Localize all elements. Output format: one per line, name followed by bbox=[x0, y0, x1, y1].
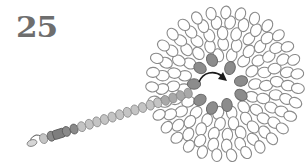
flower-bead bbox=[159, 119, 175, 135]
highlighted-bead bbox=[192, 92, 209, 108]
flower-bead bbox=[151, 107, 167, 122]
highlighted-bead bbox=[187, 79, 200, 89]
flower-bead bbox=[291, 83, 305, 94]
flower-bead bbox=[280, 40, 295, 54]
highlighted-bead bbox=[223, 60, 237, 76]
flower-bead bbox=[146, 67, 159, 78]
flower-bead bbox=[169, 130, 185, 146]
flower-bead bbox=[181, 126, 196, 142]
beading-diagram bbox=[0, 0, 305, 166]
flower-bead-rings bbox=[145, 5, 305, 162]
end-bead bbox=[26, 138, 37, 147]
flower-bead bbox=[212, 149, 222, 162]
flower-bead bbox=[286, 52, 302, 67]
highlighted-bead bbox=[233, 87, 250, 103]
flower-bead bbox=[270, 27, 286, 43]
highlighted-bead bbox=[234, 75, 249, 88]
flower-bead bbox=[145, 81, 159, 93]
arrow-head-icon bbox=[218, 72, 227, 81]
flower-bead bbox=[260, 18, 275, 34]
